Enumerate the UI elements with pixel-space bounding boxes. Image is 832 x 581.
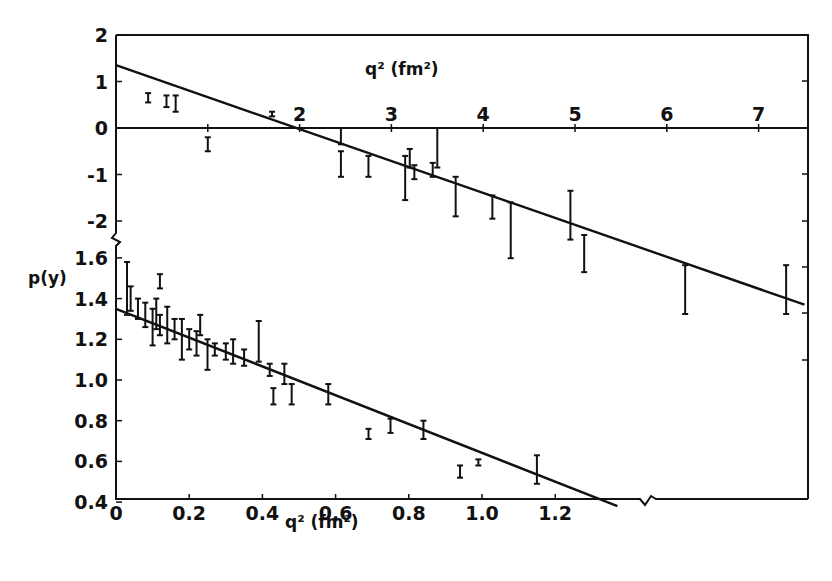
upper-x-tick-label: 7	[752, 103, 765, 125]
error-bar	[179, 319, 185, 360]
lower-x-tick-label: 1.0	[465, 502, 499, 524]
lower-x-tick-label: 0	[109, 502, 122, 524]
lower-y-tick-label: 1.6	[74, 247, 108, 269]
error-bar	[338, 151, 344, 177]
error-bar	[783, 265, 789, 314]
error-bar	[508, 202, 514, 258]
error-bar	[489, 195, 495, 218]
lower-y-axis-label: p(y)	[28, 268, 67, 288]
upper-x-tick-label: 6	[660, 103, 673, 125]
error-bar	[365, 156, 371, 177]
error-bar	[270, 388, 276, 404]
upper-y-tick-label: -1	[87, 164, 108, 186]
error-bar	[475, 459, 481, 465]
error-bar	[434, 128, 440, 168]
error-bar	[289, 384, 295, 404]
lower-y-tick-label: 0.4	[74, 491, 108, 513]
upper-x-tick-label: 5	[568, 103, 581, 125]
lower-x-tick-label: 0.8	[392, 502, 426, 524]
lower-tick-labels: 1.61.41.21.00.80.60.400.20.40.60.81.01.2	[74, 247, 572, 524]
lower-y-tick-label: 1.4	[74, 288, 108, 310]
error-bar	[173, 95, 179, 111]
upper-fit-line	[116, 65, 805, 304]
upper-data-points	[145, 93, 789, 314]
error-bar	[197, 315, 203, 335]
lower-y-tick-label: 0.6	[74, 450, 108, 472]
error-bar	[230, 339, 236, 363]
error-bar	[157, 274, 163, 288]
upper-y-tick-label: 2	[95, 24, 108, 46]
error-bar	[256, 321, 262, 362]
error-bar	[150, 309, 156, 346]
error-bar	[567, 191, 573, 240]
error-bar	[163, 95, 169, 107]
error-bar	[682, 265, 688, 314]
error-bar	[366, 429, 372, 439]
lower-x-axis-label: q² (fm²)	[285, 512, 359, 532]
lower-axis-ticks	[116, 258, 555, 502]
lower-y-tick-label: 1.0	[74, 369, 108, 391]
lower-y-tick-label: 0.8	[74, 410, 108, 432]
error-bar	[269, 112, 275, 117]
error-bar	[145, 93, 151, 102]
lower-fit-line	[116, 309, 617, 506]
error-bar	[402, 156, 408, 200]
error-bar	[534, 455, 540, 483]
error-bar	[388, 419, 394, 433]
error-bar	[457, 465, 463, 477]
upper-y-tick-label: 1	[95, 71, 108, 93]
upper-y-tick-label: 0	[95, 117, 108, 139]
error-bar	[581, 235, 587, 272]
upper-x-axis-label: q² (fm²)	[365, 59, 439, 79]
error-bar	[124, 262, 130, 315]
lower-x-tick-label: 0.4	[246, 502, 280, 524]
lower-y-tick-label: 1.2	[74, 328, 108, 350]
error-bar	[128, 286, 134, 310]
error-bar	[142, 303, 148, 327]
error-bar	[172, 319, 178, 339]
upper-y-tick-label: -2	[87, 210, 108, 232]
upper-x-tick-label: 3	[385, 103, 398, 125]
upper-x-tick-label: 2	[293, 103, 306, 125]
error-bar	[205, 137, 211, 151]
chart-canvas: 210-1-2234567 1.61.41.21.00.80.60.400.20…	[0, 0, 832, 581]
error-bar	[164, 307, 170, 344]
lower-x-tick-label: 0.2	[172, 502, 206, 524]
lower-x-tick-label: 1.2	[538, 502, 572, 524]
upper-x-tick-label: 4	[477, 103, 490, 125]
